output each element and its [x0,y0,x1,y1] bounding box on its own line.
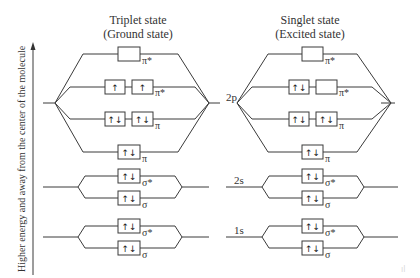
svg-text:↑↓: ↑↓ [305,172,320,182]
svg-text:↑↓: ↑↓ [121,244,136,254]
connector [323,237,364,248]
svg-text:π*: π* [339,87,349,98]
connector [78,226,118,237]
svg-text:σ*: σ* [325,227,335,238]
label-2s: 2s [234,174,244,186]
connector [140,187,182,198]
svg-text:↑↓: ↑↓ [135,115,150,125]
connector [337,103,391,119]
orbital-pi-low: ↑↓ π [302,145,330,164]
mo-diagram: Higher energy and away from the center o… [0,0,420,278]
orbital-sigma-2s: ↑↓ σ [118,191,148,210]
axis-arrow-icon [31,42,36,50]
singlet-title: Singlet state [281,13,340,27]
connector [237,87,289,103]
svg-text:↑↓: ↑↓ [121,194,136,204]
orbital-sigma-star-1s: ↑↓ σ* [118,219,152,238]
watermark: ıl [401,265,405,274]
svg-text:π: π [142,153,147,164]
svg-text:↑↓: ↑↓ [305,148,320,158]
svg-text:↑: ↑ [139,83,147,93]
orbital-pi-pair: ↑↓ ↑↓ π [289,112,344,131]
orbital-sigma-1s: ↑↓ σ [118,241,148,260]
triplet-title: Triplet state [109,13,166,27]
connector [262,237,302,248]
connector [55,103,118,152]
svg-text:σ: σ [325,199,331,210]
svg-text:↑↓: ↑↓ [121,172,136,182]
orbital-sigma-1s: ↑↓ σ [302,241,331,260]
connector [237,103,289,119]
svg-text:π: π [155,120,160,131]
connector [262,187,302,198]
svg-text:π*: π* [325,55,335,66]
svg-text:σ: σ [142,199,148,210]
orbital-sigma-star-1s: ↑↓ σ* [302,219,335,238]
svg-text:σ*: σ* [325,177,335,188]
svg-text:↑↓: ↑↓ [121,222,136,232]
triplet-panel: Triplet state (Ground state) π* ↑ ↑ [43,13,220,260]
orbital-pi-low: ↑↓ π [118,145,147,164]
connector [262,176,302,187]
svg-text:σ*: σ* [142,177,152,188]
orbital-pi-star-top: π* [302,47,335,66]
svg-text:σ*: σ* [142,227,152,238]
svg-text:π*: π* [155,87,165,98]
orbital-sigma-2s: ↑↓ σ [302,191,331,210]
orbital-pi-pair: ↑↓ ↑↓ π [105,112,160,131]
connector [140,103,209,152]
energy-axis: Higher energy and away from the center o… [16,42,36,275]
svg-text:↑↓: ↑↓ [291,83,306,93]
svg-text:↑↓: ↑↓ [305,194,320,204]
svg-text:↑↓: ↑↓ [121,148,136,158]
connector [55,54,118,103]
triplet-subtitle: (Ground state) [103,27,173,41]
orbital-pi-star-pair: ↑ ↑ π* [105,80,165,98]
svg-text:↑↓: ↑↓ [305,244,320,254]
label-1s: 1s [234,224,244,236]
svg-text:σ: σ [325,249,331,260]
connector [237,54,302,103]
svg-text:π*: π* [142,55,152,66]
connector [140,237,182,248]
connector [78,237,118,248]
connector [323,103,391,152]
connector [237,103,302,152]
orbital-pi-star-pair: ↑↓ π* [289,80,349,98]
orbital-pi-star-top: π* [118,47,152,66]
axis-label: Higher energy and away from the center o… [16,45,27,272]
svg-text:↑↓: ↑↓ [107,115,122,125]
svg-text:↑↓: ↑↓ [291,115,306,125]
svg-text:σ: σ [142,249,148,260]
orbital-sigma-star-2s: ↑↓ σ* [302,169,335,188]
svg-text:π: π [339,120,344,131]
connector [78,187,118,198]
connector [78,176,118,187]
connector [323,187,364,198]
svg-text:π: π [325,153,330,164]
label-2p: 2p [226,91,238,103]
orbital-sigma-star-2s: ↑↓ σ* [118,169,152,188]
svg-text:↑↓: ↑↓ [305,222,320,232]
svg-text:↑↓: ↑↓ [319,115,334,125]
svg-text:↑: ↑ [111,83,119,93]
singlet-subtitle: (Excited state) [275,27,345,41]
connector [262,226,302,237]
singlet-panel: Singlet state (Excited state) 2p π* ↑↓ π… [226,13,398,260]
